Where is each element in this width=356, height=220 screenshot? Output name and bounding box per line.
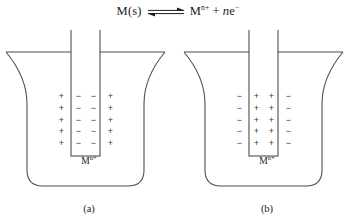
beaker-a-illustration xyxy=(0,30,178,198)
equation-product-ion: Mn+ xyxy=(190,4,210,18)
caption-b: (b) xyxy=(178,202,356,215)
equilibrium-arrow-icon xyxy=(146,6,186,18)
solution-label-a: Mn+ xyxy=(0,156,178,167)
solution-charge: n+ xyxy=(268,154,275,161)
solution-charge: n+ xyxy=(90,154,97,161)
product-symbol: M xyxy=(190,4,201,18)
solution-symbol: M xyxy=(81,156,89,166)
electrode-equilibrium-equation: M(s) Mn+ + ne− xyxy=(0,3,356,19)
equation-electrons: ne− xyxy=(223,4,240,18)
panel-b: − − − − − + + + + + + + + + + − xyxy=(178,30,356,220)
panel-a: + + + + + − − − − − − − − − − xyxy=(0,30,178,220)
electrochemistry-figure: M(s) Mn+ + ne− xyxy=(0,0,356,220)
beaker-b-illustration xyxy=(178,30,356,198)
electron-charge: − xyxy=(235,3,239,12)
equation-reactant: M(s) xyxy=(117,4,142,18)
product-charge: n+ xyxy=(201,3,209,12)
solution-label-b: Mn+ xyxy=(178,156,356,167)
solution-symbol: M xyxy=(259,156,267,166)
caption-a: (a) xyxy=(0,202,178,215)
equation-plus-sign: + xyxy=(213,4,220,18)
